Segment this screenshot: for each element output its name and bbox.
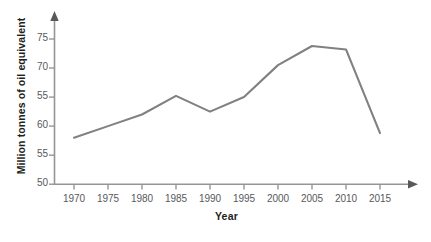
x-axis-title: Year bbox=[0, 210, 431, 222]
plot-area bbox=[0, 0, 431, 242]
y-tick-label: 50 bbox=[22, 178, 48, 188]
y-tick-label: 70 bbox=[22, 62, 48, 72]
y-tick-label: 55 bbox=[22, 91, 48, 101]
y-axis-arrowhead bbox=[50, 11, 58, 21]
y-tick-label: 60 bbox=[22, 120, 48, 130]
y-tick-label: 75 bbox=[22, 33, 48, 43]
x-axis-title-text: Year bbox=[215, 210, 238, 222]
y-axis bbox=[50, 11, 58, 185]
line-chart-figure: Million tonnes of oil equivalent Year 75… bbox=[0, 0, 431, 242]
data-line-energy-consumption bbox=[74, 46, 380, 138]
x-tick-label: 2015 bbox=[360, 194, 400, 204]
x-axis-arrowhead bbox=[408, 180, 418, 188]
x-axis bbox=[55, 180, 419, 188]
y-tick-label: 55 bbox=[22, 149, 48, 159]
y-axis-ticks bbox=[49, 39, 55, 184]
